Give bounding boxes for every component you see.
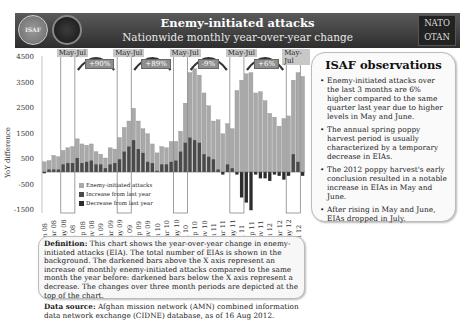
period-label: May-Jul xyxy=(170,49,201,57)
nato-logo: NATO OTAN xyxy=(418,15,456,46)
period-change-badge: +6% xyxy=(254,59,279,69)
period-label: May-Jul xyxy=(57,49,88,57)
header-banner: ISAF Enemy-initiated attacks Nationwide … xyxy=(15,13,460,48)
y-tick: -500 xyxy=(0,181,34,189)
page-title: Enemy-initiated attacks xyxy=(15,16,460,30)
observation-item: Enemy-initiated attacks over the last 3 … xyxy=(327,76,447,121)
y-tick: 4500 xyxy=(0,53,34,61)
period-change-badge: -9% xyxy=(198,59,219,69)
y-tick: 2500 xyxy=(0,104,34,112)
period-box xyxy=(61,56,75,213)
period-label: May-Jul xyxy=(113,49,144,57)
y-tick: -1500 xyxy=(0,206,34,214)
definition-panel: Definition: This chart shows the year-ov… xyxy=(38,236,305,299)
period-change-badge: +89% xyxy=(141,59,170,69)
definition-text: This chart shows the year-over-year chan… xyxy=(44,239,298,300)
y-tick: 500 xyxy=(0,155,34,163)
otan-text: OTAN xyxy=(419,30,455,44)
bar-chart xyxy=(0,48,310,230)
observations-title: ISAF observations xyxy=(320,58,447,72)
nato-text: NATO xyxy=(419,16,455,30)
observation-item: The annual spring poppy harvest period i… xyxy=(327,125,447,161)
observation-item: After rising in May and June, EIAs dropp… xyxy=(327,205,447,223)
legend-item: Increase from last year xyxy=(79,191,151,197)
period-label: May-Jul xyxy=(282,49,310,65)
period-change-badge: +90% xyxy=(85,59,114,69)
observations-panel: ISAF observations Enemy-initiated attack… xyxy=(311,52,456,222)
y-tick: 3500 xyxy=(0,79,34,87)
page-subtitle: Nationwide monthly year-over-year change xyxy=(15,31,460,43)
chart-area: YoY difference 4500350025001500500-500-1… xyxy=(0,48,310,230)
legend-item: Decrease from last year xyxy=(79,200,153,206)
observation-item: The 2012 poppy harvest's early conclusio… xyxy=(327,165,447,201)
y-tick: 1500 xyxy=(0,130,34,138)
legend-item: Enemy-initiated attacks xyxy=(79,182,152,188)
period-label: May-Jul xyxy=(226,49,257,57)
